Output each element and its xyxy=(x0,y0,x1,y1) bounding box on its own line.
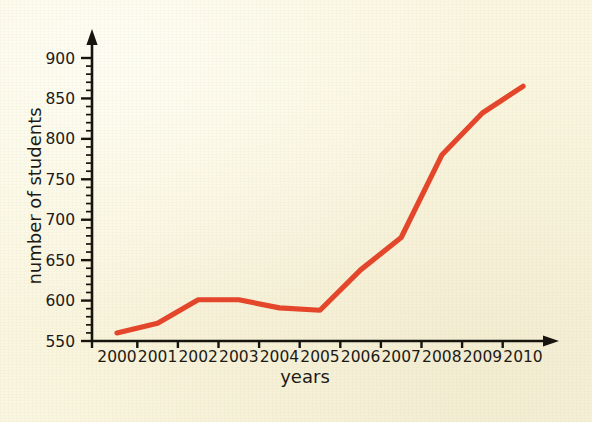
x-axis-tick-label: 2000 xyxy=(97,348,136,366)
x-axis-tick-label: 2009 xyxy=(463,348,502,366)
x-axis-tick-label: 2001 xyxy=(138,348,177,366)
x-axis-tick-label: 2007 xyxy=(381,348,420,366)
x-axis-tick-label: 2005 xyxy=(300,348,339,366)
y-axis-arrow-icon xyxy=(86,29,97,45)
y-axis-tick-label: 650 xyxy=(45,252,75,270)
data-series-group xyxy=(117,86,523,333)
x-axis-title: years xyxy=(280,366,330,387)
y-axis-tick-label: 750 xyxy=(45,171,75,189)
y-axis-tick-label: 600 xyxy=(45,292,75,310)
y-axis-tick-label: 900 xyxy=(45,50,75,68)
y-axis xyxy=(86,29,97,341)
y-axis-tick-label: 550 xyxy=(45,333,75,351)
x-axis-tick-label: 2002 xyxy=(178,348,217,366)
y-axis-major-ticks xyxy=(81,58,92,341)
chart-page: 550600650700750800850900 200020012002200… xyxy=(0,0,592,422)
y-axis-tick-label: 700 xyxy=(45,211,75,229)
x-axis-tick-label: 2003 xyxy=(219,348,258,366)
y-axis-tick-label: 800 xyxy=(45,130,75,148)
y-axis-tick-label: 850 xyxy=(45,90,75,108)
line-chart: 550600650700750800850900 200020012002200… xyxy=(0,0,592,422)
x-axis-arrow-icon xyxy=(543,335,559,346)
x-axis-tick-labels: 2000200120022003200420052006200720082009… xyxy=(97,348,542,366)
x-axis-tick-label: 2004 xyxy=(260,348,299,366)
y-axis-tick-labels: 550600650700750800850900 xyxy=(45,50,75,351)
x-axis-tick-label: 2010 xyxy=(503,348,542,366)
x-axis-tick-label: 2006 xyxy=(341,348,380,366)
y-axis-title: number of students xyxy=(24,107,45,284)
data-line-number-of-students xyxy=(117,86,523,333)
x-axis xyxy=(92,335,559,346)
x-axis-tick-label: 2008 xyxy=(422,348,461,366)
